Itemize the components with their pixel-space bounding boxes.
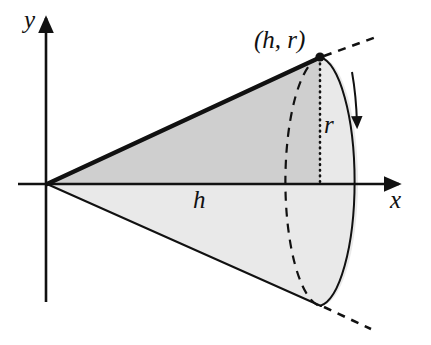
- y-axis-label: y: [21, 6, 36, 33]
- cone-diagram: y x h r (h, r): [0, 0, 431, 345]
- figure-container: y x h r (h, r): [0, 0, 431, 345]
- radius-label: r: [324, 111, 334, 138]
- point-marker-hr: [315, 52, 324, 61]
- point-coordinate-label: (h, r): [254, 26, 305, 54]
- x-axis-label: x: [389, 186, 401, 213]
- height-label: h: [193, 186, 206, 213]
- dashed-ray-upper: [324, 36, 379, 56]
- rotation-arrow: [352, 72, 357, 124]
- dashed-ray-lower: [324, 307, 371, 329]
